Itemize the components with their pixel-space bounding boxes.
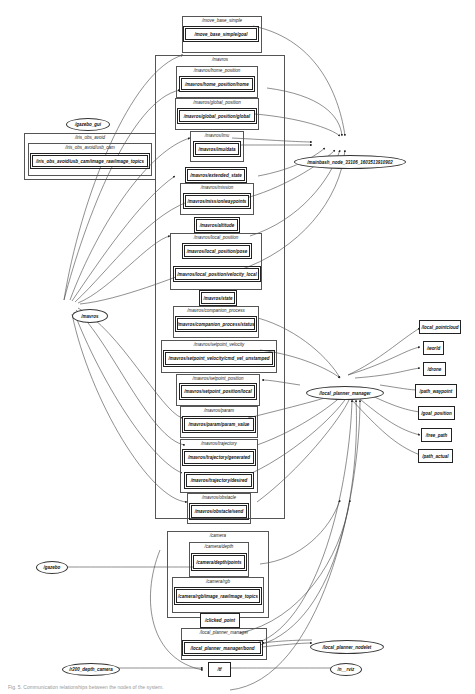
topic-trajectory-generated[interactable]: /mavros/trajectory/generated bbox=[184, 451, 254, 464]
topic-path-actual[interactable]: /path_actual bbox=[418, 449, 453, 463]
topic-path-waypoint[interactable]: /path_waypoint bbox=[415, 384, 457, 398]
rqt-graph: /move_base_simple /move_base_simple/goal… bbox=[0, 0, 475, 694]
topic-global[interactable]: /mavros/global_position/global bbox=[179, 110, 255, 122]
group-label: /mavros/mission bbox=[181, 185, 253, 190]
node-local-planner-manager[interactable]: /local_planner_manager bbox=[306, 386, 384, 400]
topic-tf[interactable]: /tf bbox=[208, 662, 231, 677]
group-label: /move_base_simple bbox=[183, 18, 261, 23]
topic-clicked-point[interactable]: /clicked_point bbox=[200, 613, 240, 628]
group-local-position: /mavros/local_position bbox=[170, 233, 262, 290]
node-n-rviz[interactable]: /n__rviz bbox=[330, 663, 362, 676]
topic-velocity-local[interactable]: /mavros/local_position/velocity_local bbox=[175, 268, 259, 280]
topic-local-pointcloud[interactable]: /local_pointcloud bbox=[419, 320, 461, 334]
group-label: /mavros/trajectory bbox=[181, 441, 257, 446]
group-label: /mavros/param bbox=[181, 408, 257, 413]
topic-state[interactable]: /mavros/state bbox=[201, 292, 235, 304]
group-label: /camera bbox=[168, 533, 268, 538]
topic-goal-position[interactable]: /goal_position bbox=[418, 406, 455, 420]
topic-depth-points[interactable]: /camera/depth/points bbox=[193, 555, 245, 569]
group-label: /mavros/obstacle bbox=[188, 495, 250, 500]
group-label: /mavros/setpoint_position bbox=[177, 376, 259, 381]
topic-goal[interactable]: /move_base_simple/goal bbox=[185, 28, 257, 40]
node-gazebo[interactable]: /gazebo bbox=[36, 561, 68, 574]
node-gazebo-gui[interactable]: /gazebo_gui bbox=[66, 118, 110, 131]
figure-caption: Fig. 5. Communication relationships betw… bbox=[8, 684, 164, 690]
group-label: /iris_obs_avoid/usb_cam bbox=[29, 145, 151, 150]
group-label: /camera/depth bbox=[190, 544, 248, 549]
topic-tree-path[interactable]: /tree_path bbox=[421, 428, 452, 442]
topic-home[interactable]: /mavros/home_position/home bbox=[181, 78, 253, 90]
topic-setpoint-local[interactable]: /mavros/setpoint_position/local bbox=[181, 385, 255, 398]
group-label: /local_planner_manager bbox=[182, 630, 266, 635]
topic-waypoints[interactable]: /mavros/mission/waypoints bbox=[185, 195, 249, 207]
topic-drone[interactable]: /drone bbox=[423, 362, 446, 376]
node-mainbash[interactable]: /mainbash_node_33106_1603513910902 bbox=[294, 155, 406, 169]
node-r200-depth-camera[interactable]: /r200_depth_camera bbox=[62, 663, 120, 676]
group-label: /mavros/setpoint_velocity bbox=[162, 342, 276, 347]
group-label: /mavros/home_position bbox=[177, 68, 257, 73]
topic-rgb-image-raw[interactable]: /camera/rgb/image_raw/image_topics bbox=[176, 589, 260, 603]
group-label: /iris_obs_avoid bbox=[25, 135, 155, 140]
topic-trajectory-desired[interactable]: /mavros/trajectory/desired bbox=[186, 474, 252, 487]
group-label: /camera/rgb bbox=[173, 579, 263, 584]
topic-bond[interactable]: /local_planner_manager/bond bbox=[184, 642, 261, 654]
group-label: /mavros bbox=[156, 57, 284, 62]
node-local-planner-nodelet[interactable]: /local_planner_nodelet bbox=[310, 640, 384, 654]
topic-companion-status[interactable]: /mavros/companion_process/status bbox=[177, 318, 255, 330]
topic-pose[interactable]: /mavros/local_position/pose bbox=[184, 245, 250, 257]
topic-param-value[interactable]: /mavros/param/param_value bbox=[184, 418, 254, 431]
node-mavros[interactable]: /mavros bbox=[72, 309, 108, 323]
group-label: /mavros/companion_process bbox=[174, 308, 258, 313]
topic-imu-data[interactable]: /mavros/imu/data bbox=[195, 143, 239, 155]
topic-world[interactable]: /world bbox=[423, 341, 444, 355]
group-label: /mavros/imu bbox=[191, 133, 243, 138]
topic-cmd-vel-unstamped[interactable]: /mavros/setpoint_velocity/cmd_vel_unstam… bbox=[165, 352, 273, 365]
topic-altitude[interactable]: /mavros/altitude bbox=[196, 219, 238, 231]
topic-usb-cam-image[interactable]: /iris_obs_avoid/usb_cam/image_raw/image_… bbox=[32, 155, 148, 167]
topic-extended-state[interactable]: /mavros/extended_state bbox=[187, 169, 245, 181]
group-label: /mavros/local_position bbox=[171, 235, 261, 240]
group-label: /mavros/global_position bbox=[176, 100, 258, 105]
topic-obstacle-send[interactable]: /mavros/obstacle/send bbox=[191, 505, 247, 518]
